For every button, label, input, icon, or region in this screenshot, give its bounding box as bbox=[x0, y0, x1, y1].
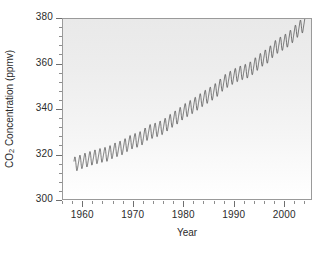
tick-mark bbox=[193, 201, 194, 204]
tick-mark bbox=[304, 201, 305, 204]
tick-mark bbox=[82, 201, 83, 207]
co2-concentration-line bbox=[63, 19, 311, 199]
x-axis-tick-label: 1980 bbox=[172, 209, 195, 220]
x-axis-title: Year bbox=[62, 227, 312, 238]
tick-mark bbox=[173, 201, 174, 204]
tick-mark bbox=[92, 201, 93, 204]
tick-mark bbox=[133, 201, 134, 207]
y-axis-title-suffix: Concentration (ppmv) bbox=[4, 50, 15, 149]
tick-mark bbox=[284, 201, 285, 207]
tick-mark bbox=[163, 201, 164, 204]
tick-mark bbox=[254, 201, 255, 204]
tick-mark bbox=[113, 201, 114, 204]
tick-mark bbox=[214, 201, 215, 204]
y-axis-title-subscript: 2 bbox=[7, 149, 16, 153]
tick-mark bbox=[274, 201, 275, 204]
tick-mark bbox=[244, 201, 245, 204]
y-axis-tick-label: 300 bbox=[36, 193, 53, 204]
tick-mark bbox=[264, 201, 265, 204]
tick-mark bbox=[72, 201, 73, 204]
tick-mark bbox=[56, 200, 62, 201]
y-axis-tick-label: 320 bbox=[36, 148, 53, 159]
tick-mark bbox=[294, 201, 295, 204]
x-axis-tick-label: 1970 bbox=[121, 209, 144, 220]
y-axis-title-holder: CO2 Concentration (ppmv) bbox=[0, 18, 20, 200]
figure-container: 30032034036038019601970198019902000 Year… bbox=[0, 0, 332, 257]
tick-mark bbox=[234, 201, 235, 207]
plot-area bbox=[62, 18, 312, 200]
tick-mark bbox=[224, 201, 225, 204]
tick-mark bbox=[123, 201, 124, 204]
tick-mark bbox=[62, 201, 63, 204]
tick-mark bbox=[183, 201, 184, 207]
x-axis-tick-label: 1990 bbox=[222, 209, 245, 220]
y-axis-tick-label: 340 bbox=[36, 102, 53, 113]
tick-mark bbox=[143, 201, 144, 204]
tick-mark bbox=[102, 201, 103, 204]
y-axis-title: CO2 Concentration (ppmv) bbox=[4, 50, 16, 168]
y-axis-tick-label: 380 bbox=[36, 11, 53, 22]
x-axis-tick-label: 1960 bbox=[71, 209, 94, 220]
y-axis-title-prefix: CO bbox=[4, 153, 15, 168]
x-axis-tick-label: 2000 bbox=[273, 209, 296, 220]
tick-mark bbox=[153, 201, 154, 204]
y-axis-tick-label: 360 bbox=[36, 57, 53, 68]
tick-mark bbox=[203, 201, 204, 204]
